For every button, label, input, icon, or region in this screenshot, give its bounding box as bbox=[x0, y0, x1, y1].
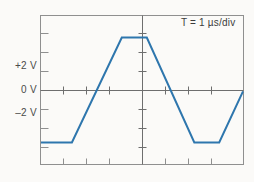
y-axis-label-minus-2v: –2 V bbox=[2, 107, 37, 118]
oscilloscope-waveform-figure: +2 V 0 V –2 V T = 1 µs/div bbox=[0, 0, 254, 182]
y-axis-label-plus-2v: +2 V bbox=[2, 60, 37, 71]
y-axis-label-zero: 0 V bbox=[2, 84, 37, 95]
bottom-edge-ticks bbox=[64, 159, 212, 165]
timebase-annotation: T = 1 µs/div bbox=[181, 17, 235, 28]
